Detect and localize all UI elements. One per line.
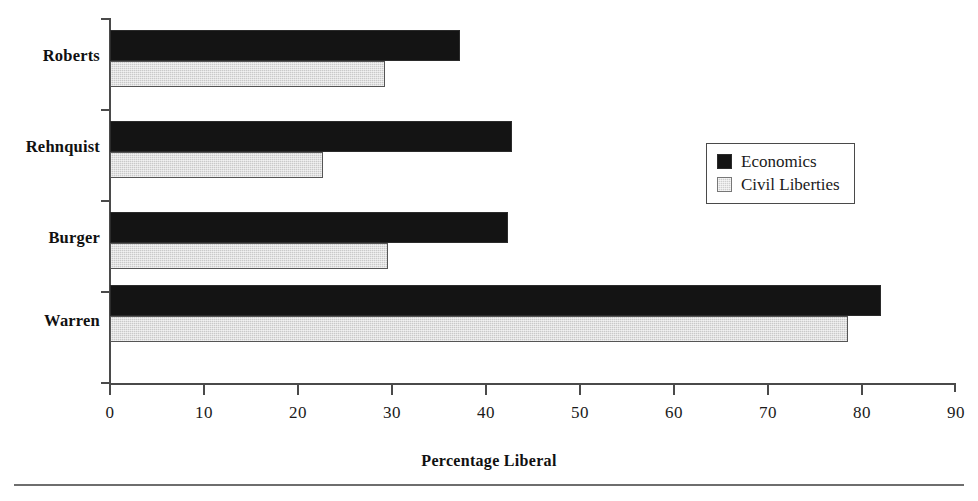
bar-economics-roberts (110, 30, 460, 61)
chart-legend: Economics Civil Liberties (706, 143, 855, 204)
legend-item-civil-liberties: Civil Liberties (717, 173, 840, 196)
x-axis-tick (297, 385, 299, 395)
bar-economics-warren (110, 285, 881, 316)
x-axis-endcap (954, 383, 956, 392)
x-axis-tick-label: 30 (372, 403, 412, 423)
civil-liberties-swatch-icon (717, 177, 732, 192)
category-label-rehnquist: Rehnquist (0, 137, 100, 157)
x-axis-tick (861, 385, 863, 395)
bar-economics-rehnquist (110, 121, 512, 152)
footer-divider (14, 484, 964, 486)
bar-civil-roberts (110, 61, 385, 87)
x-axis-tick-label: 80 (842, 403, 882, 423)
x-axis-tick (673, 385, 675, 395)
x-axis-tick (203, 385, 205, 395)
x-axis-tick (485, 385, 487, 395)
x-axis-tick-label: 50 (560, 403, 600, 423)
y-axis-tick (101, 291, 110, 293)
category-label-roberts: Roberts (0, 46, 100, 66)
category-label-text: Roberts (0, 46, 100, 66)
bar-chart: Roberts Rehnquist Burger Warren 0 10 20 … (0, 0, 978, 501)
bar-civil-warren (110, 316, 848, 342)
x-axis-tick-label: 60 (654, 403, 694, 423)
category-label-text: Rehnquist (0, 137, 100, 157)
category-label-text: Warren (0, 311, 100, 331)
bar-civil-rehnquist (110, 152, 323, 178)
category-label-burger: Burger (0, 228, 100, 248)
x-axis-tick (109, 375, 111, 395)
economics-swatch-icon (717, 154, 732, 169)
x-axis-title: Percentage Liberal (0, 452, 978, 470)
x-axis-tick-label: 40 (466, 403, 506, 423)
x-axis-tick (391, 385, 393, 395)
y-axis-tick (101, 18, 110, 20)
legend-item-economics: Economics (717, 150, 840, 173)
category-label-warren: Warren (0, 311, 100, 331)
x-axis-tick (767, 385, 769, 395)
bar-civil-burger (110, 243, 388, 269)
legend-label: Economics (741, 152, 817, 172)
y-axis-tick (101, 200, 110, 202)
x-axis-tick-label: 70 (748, 403, 788, 423)
x-axis-tick-label: 90 (936, 403, 976, 423)
legend-label: Civil Liberties (741, 175, 840, 195)
x-axis-tick (579, 385, 581, 395)
y-axis-tick (101, 109, 110, 111)
bar-economics-burger (110, 212, 508, 243)
x-axis-tick-label: 0 (90, 403, 130, 423)
x-axis-tick-label: 20 (278, 403, 318, 423)
x-axis-line (109, 383, 956, 385)
category-label-text: Burger (0, 228, 100, 248)
x-axis-tick-label: 10 (184, 403, 224, 423)
